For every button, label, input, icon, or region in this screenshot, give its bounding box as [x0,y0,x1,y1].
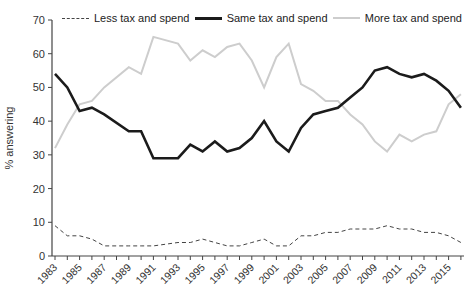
x-tick-label: 2011 [379,261,404,286]
y-tick-label: 0 [39,250,45,262]
y-tick-label: 50 [33,81,45,93]
x-tick-label: 2007 [330,261,355,286]
series-line-2 [55,37,461,152]
x-tick-label: 2009 [354,261,379,286]
y-tick-label: 20 [33,183,45,195]
y-axis-title: % answering [3,107,15,170]
x-tick-label: 2015 [428,261,453,286]
x-tick-label: 2005 [305,261,330,286]
y-tick-label: 60 [33,48,45,60]
x-tick-label: 1995 [182,261,207,286]
y-tick-label: 70 [33,14,45,26]
x-tick-label: 2013 [403,261,428,286]
series-line-1 [55,67,461,158]
x-tick-label: 1997 [207,261,232,286]
x-tick-label: 1989 [108,261,133,286]
y-tick-label: 40 [33,115,45,127]
x-tick-label: 1993 [157,261,182,286]
chart-canvas: 0102030405060701983198519871989199119931… [0,0,471,303]
x-tick-label: 1999 [231,261,256,286]
series-line-0 [55,226,461,246]
x-tick-label: 1985 [59,261,84,286]
x-tick-label: 2003 [280,261,305,286]
x-tick-label: 1991 [133,261,158,286]
y-tick-label: 30 [33,149,45,161]
y-tick-label: 10 [33,216,45,228]
x-tick-label: 2001 [256,261,281,286]
chart-container: 0102030405060701983198519871989199119931… [0,0,471,303]
x-tick-label: 1987 [84,261,109,286]
x-tick-label: 1983 [34,261,59,286]
